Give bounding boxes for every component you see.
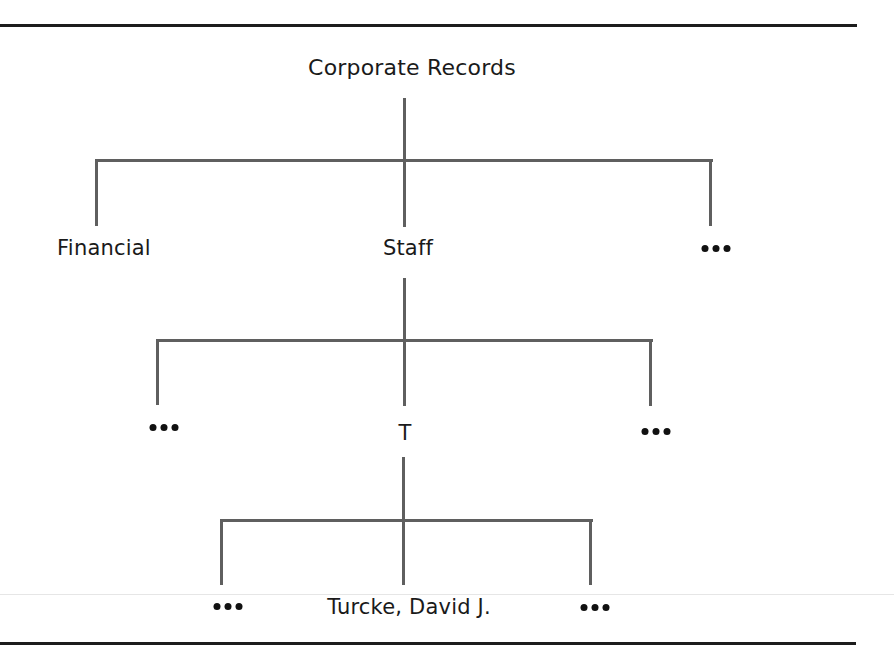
node-staff[interactable]: Staff (383, 238, 433, 259)
connector-level1-bar (95, 159, 713, 162)
node-level3-left-ellipsis[interactable] (214, 603, 243, 610)
node-turcke-david-j[interactable]: Turcke, David J. (327, 597, 491, 618)
connector-to-level3-right (589, 520, 592, 585)
bottom-rule (0, 642, 856, 645)
connector-to-level1-more (709, 160, 712, 226)
connector-staff-down (403, 278, 406, 406)
connector-to-financial (95, 159, 98, 226)
node-corporate-records[interactable]: Corporate Records (308, 57, 516, 79)
node-level3-right-ellipsis[interactable] (581, 604, 610, 611)
node-t[interactable]: T (398, 423, 411, 444)
connector-level2-bar (156, 339, 653, 342)
connector-to-level2-left (156, 339, 159, 405)
node-financial[interactable]: Financial (57, 238, 151, 259)
node-level2-left-ellipsis[interactable] (150, 424, 179, 431)
top-rule (0, 24, 857, 27)
node-level1-more-ellipsis[interactable] (702, 245, 731, 252)
connector-level3-bar (220, 519, 593, 522)
connector-to-level2-right (649, 340, 652, 406)
node-level2-right-ellipsis[interactable] (642, 428, 671, 435)
connector-root-down (403, 98, 406, 227)
connector-to-level3-left (220, 519, 223, 585)
